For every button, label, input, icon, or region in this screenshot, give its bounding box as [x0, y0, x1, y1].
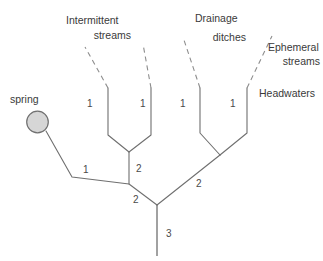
order-label-spring-branch: 1	[83, 165, 89, 176]
dashed-segment-drainage-left	[184, 40, 200, 88]
ephemeral-streams-label-line2: streams	[263, 56, 320, 67]
drainage-ditches-label-line1: Drainage	[195, 13, 238, 24]
diagram-canvas: spring Intermittent streams Drainage dit…	[0, 0, 323, 261]
order-label-drainage-left: 1	[180, 99, 186, 110]
order-label-intermittent-right: 1	[140, 99, 146, 110]
intermittent-streams-label-line2: streams	[66, 30, 131, 41]
spring-branch-line	[46, 131, 129, 184]
spring-node-circle	[27, 111, 49, 133]
order-label-lower-left-confluence: 2	[133, 195, 139, 206]
drainage-ditches-label-line2: ditches	[190, 32, 246, 43]
order-label-intermittent-left: 1	[87, 99, 93, 110]
headwaters-label: Headwaters	[259, 88, 315, 99]
order-label-right-confluence: 2	[196, 179, 202, 190]
stream-network-graphic	[0, 0, 323, 261]
order-label-intermittent-confluence: 2	[136, 164, 142, 175]
spring-label: spring	[10, 94, 39, 105]
second-order-right-reach-line	[157, 155, 220, 205]
intermittent-left-branch-line	[108, 88, 129, 152]
order-label-ephemeral-right: 1	[230, 99, 236, 110]
dashed-segment-intermittent-right	[143, 44, 151, 88]
intermittent-streams-label-line1: Intermittent	[66, 15, 119, 26]
ephemeral-streams-label-line1: Ephemeral	[268, 42, 319, 53]
dashed-segment-intermittent-left	[85, 47, 108, 88]
drainage-left-branch-line	[200, 88, 220, 155]
order-label-trunk: 3	[166, 229, 172, 240]
